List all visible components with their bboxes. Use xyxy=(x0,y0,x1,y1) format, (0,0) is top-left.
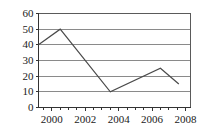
x-tick-label-2000: 2000 xyxy=(41,113,64,125)
y-tick-label-50: 50 xyxy=(23,23,35,35)
x-axis-tick-labels: 20002002200420062008 xyxy=(41,113,197,125)
line-chart: 0102030405060 20002002200420062008 xyxy=(0,0,204,134)
x-axis-ticks xyxy=(36,14,186,111)
y-tick-label-30: 30 xyxy=(23,54,35,66)
y-tick-label-10: 10 xyxy=(23,85,35,97)
y-tick-label-60: 60 xyxy=(23,7,35,19)
x-tick-label-2004: 2004 xyxy=(108,113,131,125)
y-tick-label-40: 40 xyxy=(23,38,35,50)
x-tick-label-2008: 2008 xyxy=(174,113,197,125)
x-tick-label-2002: 2002 xyxy=(74,113,96,125)
x-tick-label-2006: 2006 xyxy=(141,113,164,125)
chart-canvas: 0102030405060 20002002200420062008 xyxy=(0,0,204,134)
y-axis-tick-labels: 0102030405060 xyxy=(23,7,35,113)
y-tick-label-0: 0 xyxy=(28,101,34,113)
gridlines xyxy=(39,14,191,92)
y-tick-label-20: 20 xyxy=(23,70,35,82)
